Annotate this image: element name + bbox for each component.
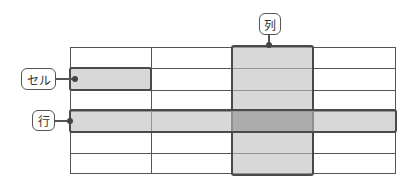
cell-connector bbox=[56, 78, 73, 80]
column-label: 列 bbox=[259, 13, 281, 35]
column-label-text: 列 bbox=[264, 16, 276, 33]
row-column-intersection bbox=[233, 111, 312, 131]
cell-label-text: セル bbox=[27, 71, 51, 88]
row-anchor-dot bbox=[67, 118, 73, 124]
row-label: 行 bbox=[32, 110, 55, 131]
cell-anchor-dot bbox=[72, 76, 78, 82]
cell-highlight bbox=[69, 67, 152, 91]
cell-label: セル bbox=[21, 68, 56, 90]
row-label-text: 行 bbox=[38, 112, 50, 129]
column-anchor-dot bbox=[266, 42, 272, 48]
